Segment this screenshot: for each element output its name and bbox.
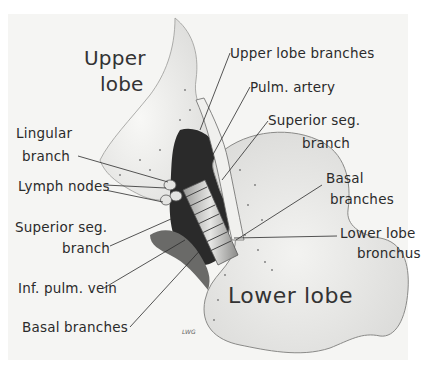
label-lower-lobe: Lower lobe	[228, 283, 353, 309]
label-superior-seg-branch-left-line1: Superior seg.	[15, 219, 107, 235]
label-lymph-nodes: Lymph nodes	[18, 178, 110, 194]
label-lingular-branch-line2: branch	[22, 148, 70, 164]
label-upper-lobe-branches: Upper lobe branches	[230, 45, 374, 61]
label-pulm-artery: Pulm. artery	[250, 79, 335, 95]
label-lower-lobe-bronchus-line2: bronchus	[357, 245, 421, 261]
label-lingular-branch-line1: Lingular	[16, 125, 72, 141]
label-basal-branches-right-line1: Basal	[326, 170, 364, 186]
label-superior-seg-branch-left-line2: branch	[62, 240, 110, 256]
label-upper-lobe-line2: lobe	[100, 72, 144, 96]
label-superior-seg-branch-right-line2: branch	[302, 135, 350, 151]
artist-signature: LWG	[182, 328, 196, 335]
label-inf-pulm-vein: Inf. pulm. vein	[18, 280, 117, 296]
label-upper-lobe-line1: Upper	[84, 46, 146, 70]
label-basal-branches-left: Basal branches	[22, 319, 128, 335]
anatomical-illustration: LWG Upper lobe Lower lobe Lingular branc…	[0, 0, 428, 371]
label-lower-lobe-bronchus-line1: Lower lobe	[340, 225, 416, 241]
label-basal-branches-right-line2: branches	[330, 191, 394, 207]
label-superior-seg-branch-right-line1: Superior seg.	[268, 112, 360, 128]
